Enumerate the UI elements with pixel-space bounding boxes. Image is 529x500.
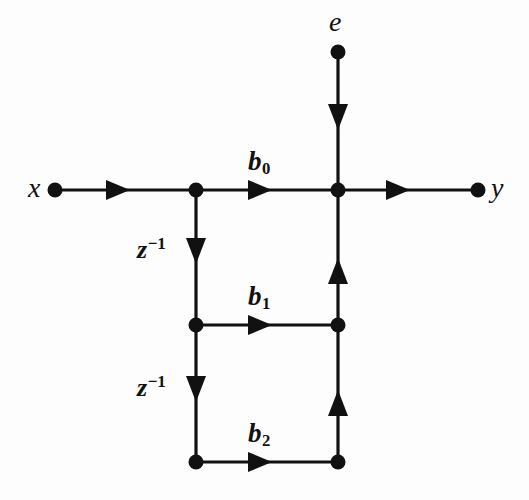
arrowhead-b1 <box>248 315 272 335</box>
edge-label-delay-1-exponent: −1 <box>148 234 166 253</box>
edge-label-b1-subscript: 1 <box>262 294 270 313</box>
node-sum[interactable] <box>331 183 346 198</box>
edge-label-delay-2-base: z <box>137 373 147 402</box>
arrowhead-e-to-sum <box>328 104 348 130</box>
edge-label-b2: b2 <box>248 420 270 450</box>
node-tap0[interactable] <box>189 183 204 198</box>
graph-nodes <box>48 45 486 470</box>
edge-lines <box>55 52 478 462</box>
edge-label-b2-base: b <box>248 418 262 448</box>
edge-label-delay-2: z−1 <box>137 373 166 401</box>
node-x-terminal[interactable] <box>48 183 63 198</box>
arrowhead-join1-to-sum <box>328 258 348 284</box>
edge-label-delay-1-base: z <box>137 235 147 264</box>
edge-label-b2-subscript: 2 <box>262 431 270 450</box>
arrowhead-b2 <box>248 452 272 472</box>
edge-label-b0: b0 <box>248 148 270 178</box>
node-tap2[interactable] <box>189 455 204 470</box>
signal-flow-graph-figure: x e y b0 b1 b2 z−1 z−1 <box>0 0 529 500</box>
edge-label-delay-2-exponent: −1 <box>148 372 166 391</box>
edge-label-b0-subscript: 0 <box>262 159 270 178</box>
edge-label-b1: b1 <box>248 283 270 313</box>
node-label-e: e <box>329 8 341 36</box>
edge-label-b0-base: b <box>248 146 262 176</box>
node-label-y: y <box>491 174 503 202</box>
node-label-x: x <box>28 174 40 202</box>
arrowhead-delay-1 <box>186 238 206 264</box>
arrowhead-b0 <box>248 180 272 200</box>
arrowhead-join2-to-join1 <box>328 390 348 416</box>
arrowhead-sum-to-y <box>386 180 410 200</box>
edge-label-delay-1: z−1 <box>137 235 166 263</box>
node-join1[interactable] <box>331 318 346 333</box>
node-y-terminal[interactable] <box>471 183 486 198</box>
node-e-terminal[interactable] <box>331 45 346 60</box>
edge-label-b1-base: b <box>248 281 262 311</box>
node-join2[interactable] <box>331 455 346 470</box>
arrowhead-delay-2 <box>186 376 206 402</box>
node-tap1[interactable] <box>189 318 204 333</box>
arrowhead-x-to-tap0 <box>106 180 130 200</box>
